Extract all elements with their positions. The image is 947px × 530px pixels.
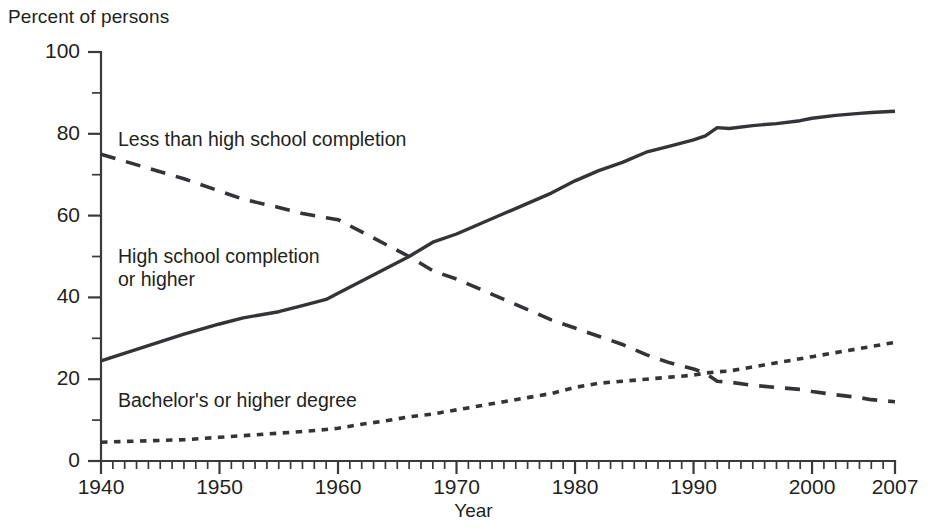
x-tick-label: 1980 (530, 475, 620, 499)
series-label-0: Less than high school completion (118, 128, 406, 151)
series-label-1: High school completion or higher (118, 245, 320, 291)
y-tick-label: 0 (20, 448, 80, 472)
y-tick-label: 60 (20, 203, 80, 227)
x-tick-label: 2007 (850, 475, 940, 499)
series-label-2: Bachelor's or higher degree (118, 389, 357, 412)
x-tick-label: 1960 (293, 475, 383, 499)
y-tick-label: 20 (20, 366, 80, 390)
x-tick-label: 1950 (175, 475, 265, 499)
chart-figure: Percent of persons 020406080100 19401950… (0, 0, 947, 530)
x-tick-label: 1940 (56, 475, 146, 499)
x-tick-label: 1990 (649, 475, 739, 499)
x-tick-label: 2000 (767, 475, 857, 499)
x-axis-title: Year (0, 500, 947, 522)
x-tick-label: 1970 (412, 475, 502, 499)
y-tick-label: 40 (20, 284, 80, 308)
y-tick-label: 100 (20, 39, 80, 63)
y-tick-label: 80 (20, 121, 80, 145)
